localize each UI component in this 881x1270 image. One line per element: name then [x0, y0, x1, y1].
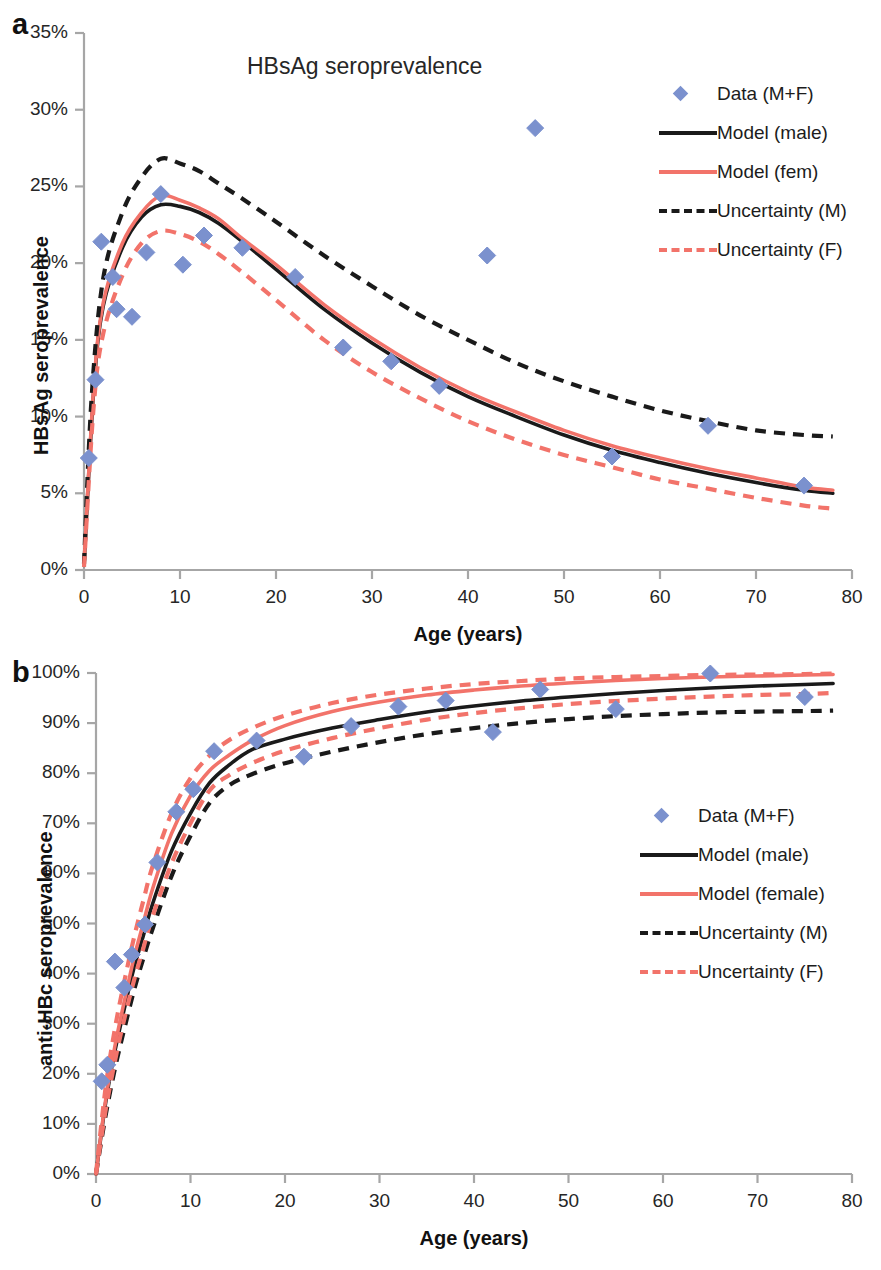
legend-solid-line-icon: [655, 162, 717, 182]
legend-label: Uncertainty (M): [717, 200, 847, 222]
x-tick-label: 20: [246, 586, 306, 608]
legend-item[interactable]: Model (male): [636, 835, 828, 874]
y-tick-label: 90%: [18, 711, 80, 733]
legend-item[interactable]: Data (M+F): [655, 74, 847, 113]
legend-dashed-line-icon: [655, 201, 717, 221]
dashed-line-icon: [659, 248, 717, 252]
legend-diamond-icon: [636, 806, 698, 826]
y-tick-label: 35%: [6, 21, 68, 43]
panel-b-legend: Data (M+F)Model (male)Model (female)Unce…: [636, 796, 828, 991]
legend-dashed-line-icon: [655, 240, 717, 260]
dashed-line-icon: [640, 931, 698, 935]
legend-item[interactable]: Model (fem): [655, 152, 847, 191]
solid-line-icon: [659, 170, 717, 174]
x-tick-label: 40: [438, 586, 498, 608]
x-tick-label: 0: [66, 1190, 126, 1212]
x-tick-label: 30: [350, 1190, 410, 1212]
x-tick-label: 60: [630, 586, 690, 608]
y-axis-title: anti-HBc seroprevalence: [34, 831, 57, 1066]
solid-line-icon: [659, 131, 717, 135]
y-tick-label: 10%: [18, 1112, 80, 1134]
y-tick-label: 80%: [18, 761, 80, 783]
x-tick-label: 20: [255, 1190, 315, 1212]
legend-label: Data (M+F): [717, 83, 814, 105]
y-tick-label: 25%: [6, 174, 68, 196]
figure-root: a HBsAg seroprevalence Data (M+F)Model (…: [0, 0, 881, 1270]
legend-item[interactable]: Uncertainty (M): [636, 913, 828, 952]
legend-label: Model (male): [698, 844, 809, 866]
legend-label: Model (female): [698, 883, 825, 905]
legend-solid-line-icon: [636, 884, 698, 904]
x-axis-title: Age (years): [84, 623, 852, 646]
x-tick-label: 30: [342, 586, 402, 608]
legend-label: Uncertainty (F): [717, 239, 843, 261]
x-tick-label: 70: [726, 586, 786, 608]
legend-diamond-icon: [655, 84, 717, 104]
legend-item[interactable]: Data (M+F): [636, 796, 828, 835]
y-tick-label: 5%: [6, 481, 68, 503]
legend-label: Model (male): [717, 122, 828, 144]
solid-line-icon: [640, 892, 698, 896]
x-axis-title: Age (years): [96, 1227, 852, 1250]
legend-item[interactable]: Uncertainty (M): [655, 191, 847, 230]
diamond-icon: [654, 807, 670, 823]
legend-dashed-line-icon: [636, 962, 698, 982]
x-tick-label: 50: [539, 1190, 599, 1212]
legend-label: Data (M+F): [698, 805, 795, 827]
legend-label: Uncertainty (F): [698, 961, 824, 983]
panel-b: b anti-HBc seroprevalence Data (M+F)Mode…: [0, 648, 881, 1270]
x-tick-label: 10: [150, 586, 210, 608]
legend-solid-line-icon: [655, 123, 717, 143]
x-tick-label: 70: [728, 1190, 788, 1212]
solid-line-icon: [640, 853, 698, 857]
x-tick-label: 10: [161, 1190, 221, 1212]
y-tick-label: 0%: [18, 1162, 80, 1184]
y-tick-label: 0%: [6, 558, 68, 580]
diamond-icon: [673, 85, 689, 101]
y-tick-label: 30%: [6, 98, 68, 120]
x-tick-label: 60: [633, 1190, 693, 1212]
legend-dashed-line-icon: [636, 923, 698, 943]
dashed-line-icon: [640, 970, 698, 974]
legend-item[interactable]: Model (male): [655, 113, 847, 152]
x-tick-label: 40: [444, 1190, 504, 1212]
legend-item[interactable]: Model (female): [636, 874, 828, 913]
legend-item[interactable]: Uncertainty (F): [655, 230, 847, 269]
y-tick-label: 70%: [18, 811, 80, 833]
x-tick-label: 0: [54, 586, 114, 608]
legend-label: Uncertainty (M): [698, 922, 828, 944]
legend-item[interactable]: Uncertainty (F): [636, 952, 828, 991]
legend-label: Model (fem): [717, 161, 818, 183]
legend-solid-line-icon: [636, 845, 698, 865]
x-tick-label: 80: [822, 1190, 881, 1212]
dashed-line-icon: [659, 209, 717, 213]
panel-a-legend: Data (M+F)Model (male)Model (fem)Uncerta…: [655, 74, 847, 269]
panel-a: a HBsAg seroprevalence Data (M+F)Model (…: [0, 0, 881, 648]
x-tick-label: 80: [822, 586, 881, 608]
y-tick-label: 100%: [18, 661, 80, 683]
y-axis-title: HBsAg seroprevalence: [30, 236, 53, 455]
x-tick-label: 50: [534, 586, 594, 608]
